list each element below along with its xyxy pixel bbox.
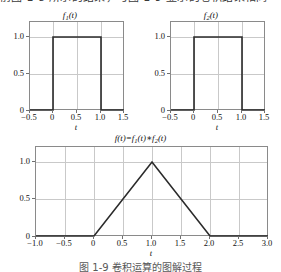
xtick-label: 1.5 [259,113,270,122]
chart-panel-f2: f2(t) −0.5 0 0.5 1.0 1.5 0 0.5 1.0 t [141,10,281,130]
xtick-label: 2.0 [204,239,215,248]
chart-panel-convolution: f(t)=f1(t)∗f2(t) [0,133,281,258]
clipped-figure-caption-bottom: 图 1-9 卷积运算的图解过程 [0,262,281,272]
xtick-label: 2.5 [233,239,244,248]
curve-convolution [36,147,269,237]
xtick-label: 0 [91,239,95,248]
xtick-label: 0 [50,113,54,122]
xtick-label: −0.5 [56,239,71,248]
xtick-label: 1.0 [146,239,157,248]
plot-frame-f1 [29,21,124,110]
curve-f1 [30,22,125,111]
chart-title-f1: f1(t) [0,10,140,21]
xtick-label: 0.5 [71,113,82,122]
ytick-mark [167,110,170,111]
xtick-label: 0.5 [117,239,128,248]
ytick-mark [26,110,29,111]
ytick-label: 1.0 [4,157,30,166]
ytick-label: 1.0 [0,32,24,41]
xaxis-label-f2: t [216,123,218,132]
chart-title-f2: f2(t) [141,10,281,21]
ytick-mark [26,73,29,74]
xtick-label: 1.0 [95,113,106,122]
ytick-mark [32,198,35,199]
ytick-mark [32,161,35,162]
chart-panel-f1: f1(t) −0.5 0 0.5 1.0 1.5 [0,10,140,130]
ytick-label: 1.0 [141,32,165,41]
ytick-label: 0 [0,106,24,115]
xtick-label: 1.5 [175,239,186,248]
ytick-mark [26,36,29,37]
ytick-mark [167,36,170,37]
xtick-label: 0 [191,113,195,122]
ytick-label: 0.5 [141,69,165,78]
ytick-mark [32,236,35,237]
xaxis-label-convolution: t [150,249,152,258]
ytick-mark [167,73,170,74]
xaxis-label-f1: t [75,123,77,132]
ytick-label: 0 [4,232,30,241]
ytick-label: 0.5 [0,69,24,78]
curve-f2 [171,22,266,111]
plot-frame-convolution [35,146,268,236]
chart-title-convolution: f(t)=f1(t)∗f2(t) [0,133,281,144]
xtick-label: 1.0 [236,113,247,122]
xtick-label: 0.5 [212,113,223,122]
plot-frame-f2 [170,21,265,110]
ytick-label: 0.5 [4,194,30,203]
clipped-body-text-top: 前图 1-8 所示的结果，与图 1-9 显示的卷积结果相同 [0,0,281,5]
xtick-label: 1.5 [118,113,129,122]
xtick-label: 3.0 [262,239,273,248]
ytick-label: 0 [141,106,165,115]
